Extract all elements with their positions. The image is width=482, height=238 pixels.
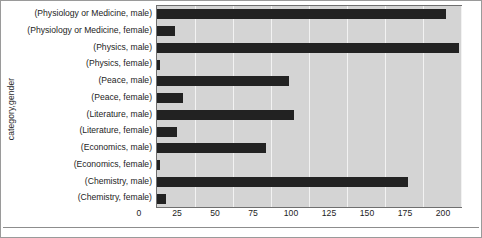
- bar: [157, 143, 266, 153]
- y-axis-title-text: category,gender: [6, 77, 16, 139]
- category-tick-label: (Literature, male): [87, 106, 152, 123]
- x-gridline: [461, 6, 462, 207]
- bar-row: [157, 56, 461, 73]
- category-tick-label: (Economics, female): [74, 156, 152, 173]
- category-tick-label: (Physics, female): [86, 55, 152, 72]
- bar-row: [157, 90, 461, 107]
- x-tick-label: 75: [248, 208, 258, 218]
- bar-row: [157, 107, 461, 124]
- bar-row: [157, 6, 461, 23]
- horizontal-bar-chart: category,gender (Physiology or Medicine,…: [0, 0, 482, 238]
- x-axis-ticks: 0255075100125150175200: [138, 204, 444, 226]
- x-tick-label: 150: [360, 208, 374, 218]
- bottom-divider: [3, 227, 479, 228]
- bar-row: [157, 140, 461, 157]
- bar: [157, 43, 459, 53]
- bar-row: [157, 123, 461, 140]
- category-tick-label: (Physiology or Medicine, female): [27, 22, 152, 39]
- category-labels: (Physiology or Medicine, male)(Physiolog…: [19, 5, 154, 208]
- category-tick-label: (Physiology or Medicine, male): [35, 5, 153, 22]
- category-tick-label: (Chemistry, male): [85, 173, 152, 190]
- bar-row: [157, 23, 461, 40]
- bar: [157, 26, 175, 36]
- bar-row: [157, 157, 461, 174]
- category-tick-label: (Peace, male): [99, 72, 153, 89]
- bar-row: [157, 40, 461, 57]
- bar: [157, 93, 183, 103]
- bar: [157, 9, 446, 19]
- bar-row: [157, 73, 461, 90]
- x-tick-label: 100: [284, 208, 298, 218]
- bar: [157, 194, 166, 204]
- bar: [157, 177, 408, 187]
- plot-area: [156, 5, 462, 208]
- x-tick-label: 175: [398, 208, 412, 218]
- bar: [157, 127, 177, 137]
- bar: [157, 60, 160, 70]
- category-tick-label: (Physics, male): [93, 39, 152, 56]
- bar-row: [157, 174, 461, 191]
- bar: [157, 110, 294, 120]
- category-tick-label: (Economics, male): [81, 139, 152, 156]
- bar: [157, 76, 289, 86]
- y-axis-title: category,gender: [3, 1, 19, 216]
- x-tick-label: 125: [322, 208, 336, 218]
- x-tick-label: 50: [210, 208, 220, 218]
- bar: [157, 160, 160, 170]
- x-tick-label: 25: [172, 208, 182, 218]
- chart-grid: (Physiology or Medicine, male)(Physiolog…: [19, 5, 479, 237]
- x-tick-label: 0: [137, 208, 142, 218]
- category-tick-label: (Literature, female): [79, 122, 152, 139]
- category-tick-label: (Peace, female): [91, 89, 152, 106]
- x-tick-label: 200: [436, 208, 450, 218]
